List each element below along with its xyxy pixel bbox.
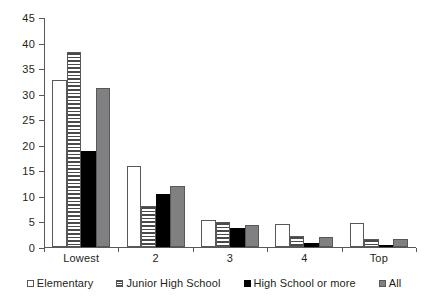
y-axis-tick [39, 69, 44, 70]
bar-chart: 051015202530354045 Lowest234Top Elementa… [0, 0, 428, 305]
gray-square-swatch [379, 280, 386, 287]
y-axis-tick-label: 10 [22, 191, 35, 203]
x-axis-tick-label: Top [370, 252, 388, 264]
y-axis-tick-label: 35 [22, 63, 35, 75]
x-axis-tick-label: 4 [301, 252, 307, 264]
bar [216, 222, 231, 247]
legend-item-label: All [389, 277, 402, 289]
bar [96, 88, 111, 247]
bar [275, 224, 290, 247]
y-axis-tick-label: 20 [22, 140, 35, 152]
filled-black-square-swatch [244, 280, 251, 287]
x-axis-tick-label: 2 [152, 252, 158, 264]
bar [141, 206, 156, 247]
y-axis-tick-label: 40 [22, 38, 35, 50]
bar [350, 223, 365, 247]
y-axis-line [44, 18, 45, 248]
legend-item-label: Junior High School [126, 277, 220, 289]
y-axis-tick-label: 0 [29, 242, 35, 254]
y-axis-tick [39, 146, 44, 147]
y-axis-tick-label: 45 [22, 12, 35, 24]
bar [379, 245, 394, 247]
striped-square-swatch [116, 280, 123, 287]
y-axis-tick [39, 18, 44, 19]
bar [393, 239, 408, 247]
y-axis-tick [39, 95, 44, 96]
y-axis-tick-label: 5 [29, 216, 35, 228]
legend-item-label: High School or more [254, 277, 356, 289]
bar [319, 237, 334, 247]
bar [127, 166, 142, 247]
bar [290, 236, 305, 247]
bar [67, 52, 82, 247]
open-square-swatch [27, 280, 34, 287]
x-axis-tick [193, 248, 194, 252]
x-axis-tick-label: 3 [227, 252, 233, 264]
y-axis-tick [39, 222, 44, 223]
bar [245, 225, 260, 247]
x-axis-tick [416, 248, 417, 252]
legend-item[interactable]: All [379, 277, 402, 289]
bar [230, 228, 245, 247]
x-axis-line [44, 247, 416, 248]
x-axis-tick [44, 248, 45, 252]
y-axis-tick [39, 44, 44, 45]
plot-area: 051015202530354045 Lowest234Top [44, 18, 416, 248]
y-axis-tick [39, 197, 44, 198]
bar [52, 80, 67, 247]
bar [364, 239, 379, 247]
legend-item[interactable]: High School or more [244, 277, 356, 289]
y-axis-tick-label: 15 [22, 165, 35, 177]
chart-legend: ElementaryJunior High SchoolHigh School … [0, 277, 428, 289]
x-axis-tick [267, 248, 268, 252]
x-axis-tick [342, 248, 343, 252]
bar [81, 151, 96, 247]
bar [156, 194, 171, 247]
y-axis-tick-label: 25 [22, 114, 35, 126]
bar [201, 220, 216, 247]
legend-item[interactable]: Elementary [27, 277, 94, 289]
y-axis-tick [39, 120, 44, 121]
legend-item-label: Elementary [37, 277, 94, 289]
y-axis-tick-label: 30 [22, 89, 35, 101]
x-axis-tick-label: Lowest [63, 252, 99, 264]
y-axis-tick [39, 171, 44, 172]
x-axis-tick [118, 248, 119, 252]
bar [304, 243, 319, 247]
bar [170, 186, 185, 247]
legend-item[interactable]: Junior High School [116, 277, 220, 289]
